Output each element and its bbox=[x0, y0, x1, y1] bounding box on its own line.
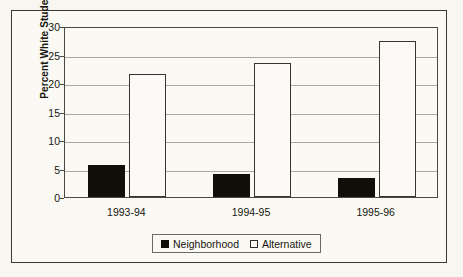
legend-entry-neighborhood: Neighborhood bbox=[161, 238, 239, 250]
x-category-label-1995-96: 1995-96 bbox=[356, 206, 395, 218]
bar-alternative-1993-94 bbox=[129, 74, 166, 197]
y-tick-label-20: 20 bbox=[34, 79, 60, 90]
y-tick-label-5: 5 bbox=[34, 164, 60, 175]
legend-swatch-neighborhood-icon bbox=[161, 240, 169, 248]
legend-swatch-alternative-icon bbox=[250, 240, 258, 248]
chart-legend: NeighborhoodAlternative bbox=[152, 234, 321, 253]
y-axis-tick-labels: 051015202530 bbox=[28, 27, 60, 198]
bar-alternative-1995-96 bbox=[379, 41, 416, 197]
y-tick-label-10: 10 bbox=[34, 136, 60, 147]
legend-label-neighborhood: Neighborhood bbox=[173, 238, 239, 250]
y-tick-mark-0 bbox=[60, 198, 64, 199]
y-tick-label-15: 15 bbox=[34, 107, 60, 118]
plot-area bbox=[64, 27, 438, 198]
bar-neighborhood-1994-95 bbox=[213, 174, 250, 197]
bar-alternative-1994-95 bbox=[254, 63, 291, 197]
x-category-label-1993-94: 1993-94 bbox=[107, 206, 146, 218]
x-category-label-1994-95: 1994-95 bbox=[232, 206, 271, 218]
bar-neighborhood-1993-94 bbox=[88, 165, 125, 197]
legend-entry-alternative: Alternative bbox=[250, 238, 312, 250]
y-tick-label-30: 30 bbox=[34, 22, 60, 33]
bar-neighborhood-1995-96 bbox=[338, 178, 375, 197]
chart-figure: Percent White Students 051015202530 1993… bbox=[0, 0, 463, 277]
y-tick-label-25: 25 bbox=[34, 50, 60, 61]
legend-label-alternative: Alternative bbox=[262, 238, 312, 250]
y-tick-label-0: 0 bbox=[34, 193, 60, 204]
